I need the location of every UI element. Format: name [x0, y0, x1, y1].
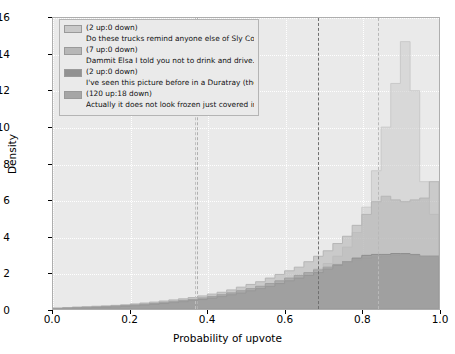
legend-votes: (2 up:0 down) — [86, 23, 254, 34]
legend-swatch — [64, 69, 82, 77]
legend: (2 up:0 down)Do these trucks remind anyo… — [59, 19, 259, 116]
x-tick-label: 1.0 — [420, 314, 455, 325]
y-tick-label: 4 — [3, 232, 10, 243]
legend-label: Do these trucks remind anyone else of Sl… — [86, 34, 254, 45]
y-tick-mark — [48, 54, 52, 55]
x-tick-mark — [130, 310, 131, 314]
legend-item[interactable]: (7 up:0 down)Dammit Elsa I told you not … — [64, 45, 254, 66]
legend-item[interactable]: (2 up:0 down)Do these trucks remind anyo… — [64, 23, 254, 44]
x-tick-mark — [285, 310, 286, 314]
x-tick-mark — [52, 310, 53, 314]
x-tick-label: 0.8 — [342, 314, 382, 325]
y-tick-mark — [48, 17, 52, 18]
vline-marker — [378, 18, 379, 309]
y-tick-mark — [48, 164, 52, 165]
legend-swatch — [64, 47, 82, 55]
x-tick-mark — [207, 310, 208, 314]
legend-label: Actually it does not look frozen just co… — [86, 100, 254, 111]
legend-swatch — [64, 91, 82, 99]
y-tick-mark — [48, 200, 52, 201]
y-tick-mark — [48, 127, 52, 128]
y-tick-label: 10 — [0, 122, 10, 133]
legend-item[interactable]: (2 up:0 down)I've seen this picture befo… — [64, 67, 254, 88]
y-tick-label: 16 — [0, 12, 10, 23]
y-tick-label: 8 — [3, 159, 10, 170]
legend-votes: (7 up:0 down) — [86, 45, 254, 56]
x-tick-mark — [362, 310, 363, 314]
y-tick-label: 2 — [3, 268, 10, 279]
y-tick-label: 14 — [0, 49, 10, 60]
legend-label: I've seen this picture before in a Durat… — [86, 78, 254, 89]
y-tick-mark — [48, 90, 52, 91]
legend-votes: (2 up:0 down) — [86, 67, 254, 78]
y-tick-mark — [48, 273, 52, 274]
histogram-figure: Density Probability of upvote (2 up:0 do… — [0, 0, 455, 354]
y-tick-label: 12 — [0, 85, 10, 96]
x-tick-label: 0.2 — [110, 314, 150, 325]
x-tick-label: 0.4 — [187, 314, 227, 325]
y-tick-label: 6 — [3, 195, 10, 206]
y-tick-label: 0 — [3, 305, 10, 316]
x-tick-label: 0.6 — [265, 314, 305, 325]
legend-swatch — [64, 25, 82, 33]
y-tick-mark — [48, 237, 52, 238]
x-tick-mark — [440, 310, 441, 314]
x-axis-label: Probability of upvote — [0, 332, 455, 344]
legend-votes: (120 up:18 down) — [86, 89, 254, 100]
vline-marker — [318, 18, 319, 309]
x-tick-label: 0.0 — [32, 314, 72, 325]
legend-label: Dammit Elsa I told you not to drink and … — [86, 56, 254, 67]
legend-item[interactable]: (120 up:18 down)Actually it does not loo… — [64, 89, 254, 110]
